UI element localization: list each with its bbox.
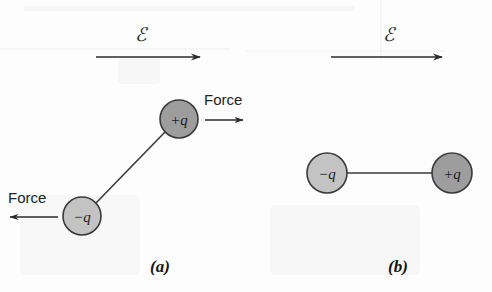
charge-positive-label-panel-b: +q <box>443 166 461 182</box>
figure-canvas: ℰ +q −q Force Force (a) ℰ −q +q (b) <box>0 0 492 292</box>
charge-negative-label-panel-b: −q <box>318 166 336 182</box>
electric-dipole-figure: ℰ +q −q Force Force (a) ℰ −q +q (b) <box>0 0 492 292</box>
panel-caption-b: (b) <box>388 257 408 276</box>
field-symbol-panel-a: ℰ <box>135 24 149 45</box>
charge-negative-label-panel-a: −q <box>73 209 91 225</box>
force-label-negative-panel-a: Force <box>8 189 46 206</box>
panel-caption-a: (a) <box>150 257 170 276</box>
dipole-rod-panel-a <box>96 132 165 203</box>
charge-positive-label-panel-a: +q <box>170 112 188 128</box>
force-label-positive-panel-a: Force <box>204 91 242 108</box>
field-symbol-panel-b: ℰ <box>383 24 397 45</box>
